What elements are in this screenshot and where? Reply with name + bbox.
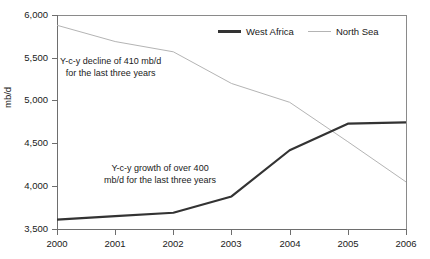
annotation-growth-line2: mb/d for the last three years: [104, 175, 216, 187]
annotation-decline-line1: Y-c-y decline of 410 mb/d: [60, 56, 161, 68]
annotation-growth-line1: Y-c-y growth of over 400: [104, 163, 216, 175]
legend-item-north-sea: North Sea: [308, 26, 379, 37]
series-layer: [0, 0, 430, 259]
legend-label-north-sea: North Sea: [336, 26, 379, 37]
annotation-decline-line2: for the last three years: [60, 68, 161, 80]
annotation-decline: Y-c-y decline of 410 mb/d for the last t…: [60, 56, 161, 79]
legend-label-west-africa: West Africa: [246, 26, 294, 37]
annotation-growth: Y-c-y growth of over 400 mb/d for the la…: [104, 163, 216, 186]
legend-line-icon-west-africa: [218, 30, 241, 32]
series-line-north-sea: [57, 25, 406, 182]
legend-item-west-africa: West Africa: [218, 26, 294, 37]
legend-line-icon-north-sea: [308, 31, 331, 32]
legend: West Africa North Sea: [218, 26, 379, 37]
line-chart: 6,000 5,500 5,000 4,500 4,000 3,500 mb/d…: [0, 0, 430, 259]
